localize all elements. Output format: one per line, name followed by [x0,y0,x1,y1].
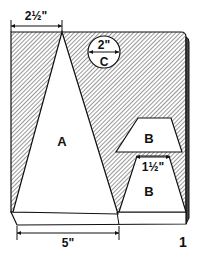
top-dim-arrow-left [11,24,15,28]
piece-b-upper-label: B [144,131,153,146]
cutting-diagram: 2½" 2" C A B 1½" B 5" 1 [0,0,202,256]
top-dim-arrow-right [58,24,62,28]
figure-number: 1 [179,234,187,250]
bottom-dim-arrow-left [17,231,21,235]
piece-a-label: A [57,134,67,149]
bottom-dim-arrow-right [115,231,119,235]
piece-b-lower-label: B [144,184,153,199]
circle-dim-label: 2" [98,38,110,52]
mid-dim-label: 1½" [142,160,164,174]
top-dim-label: 2½" [25,9,47,23]
bottom-dim-label: 5" [62,236,74,250]
piece-c-label: C [100,55,109,69]
board-right-edge [186,37,189,224]
